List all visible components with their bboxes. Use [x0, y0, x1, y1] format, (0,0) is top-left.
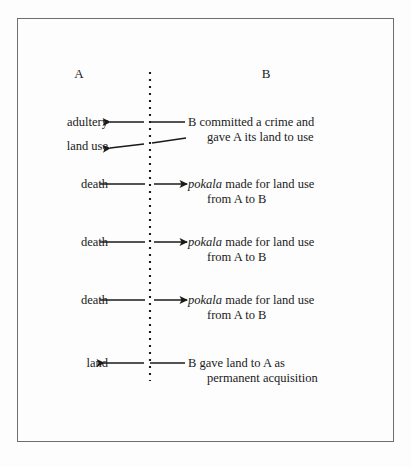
right-term-pokala-1: pokala	[188, 177, 222, 191]
right-text-adultery-line1: B committed a crime and	[188, 115, 314, 129]
diagram-connectors	[0, 0, 411, 467]
right-text-adultery: B committed a crime and gave A its land …	[188, 115, 388, 145]
left-label-death-1: death	[81, 177, 108, 192]
left-label-death-3: death	[81, 293, 108, 308]
right-text-land-line2: permanent acquisition	[188, 371, 388, 386]
right-text-land: B gave land to A as permanent acquisitio…	[188, 356, 388, 386]
left-label-death-2: death	[81, 235, 108, 250]
left-label-land-use: land use	[67, 139, 108, 154]
right-text-land-line1: B gave land to A as	[188, 356, 285, 370]
right-text-death-1-line2: from A to B	[188, 192, 388, 207]
right-text-death-2-line2: from A to B	[188, 250, 388, 265]
right-text-death-3-line1: made for land use	[222, 293, 314, 307]
right-text-death-1: pokala made for land use from A to B	[188, 177, 388, 207]
connector-land-use	[110, 138, 186, 148]
figure-canvas: A B adultery land use death death death …	[0, 0, 411, 467]
right-text-death-1-line1: made for land use	[222, 177, 314, 191]
right-text-adultery-line2: gave A its land to use	[188, 130, 388, 145]
right-text-death-2: pokala made for land use from A to B	[188, 235, 388, 265]
column-header-b: B	[262, 66, 271, 82]
left-label-adultery: adultery	[67, 115, 108, 130]
right-term-pokala-2: pokala	[188, 235, 222, 249]
column-header-a: A	[74, 66, 83, 82]
right-text-death-2-line1: made for land use	[222, 235, 314, 249]
left-label-land: land	[86, 356, 108, 371]
right-term-pokala-3: pokala	[188, 293, 222, 307]
right-text-death-3-line2: from A to B	[188, 308, 388, 323]
right-text-death-3: pokala made for land use from A to B	[188, 293, 388, 323]
